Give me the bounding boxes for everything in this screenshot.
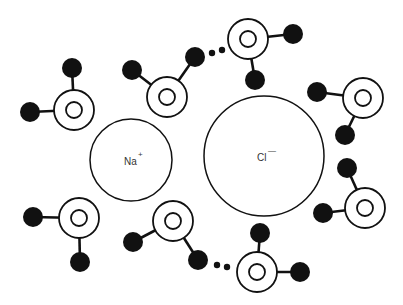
oxygen-atom-outer: [345, 188, 385, 228]
sodium-ion: Na +: [90, 119, 172, 201]
oxygen-atom-outer: [147, 77, 187, 117]
oxygen-atom-outer: [59, 198, 99, 238]
hydrogen-atom: [123, 232, 143, 252]
hydrogen-atom: [313, 203, 333, 223]
sodium-ion-label: Na: [124, 156, 137, 167]
hydrogen-bond-dot: [209, 50, 215, 56]
hydrogen-atom: [70, 252, 90, 272]
oxygen-atoms: [54, 19, 385, 292]
oxygen-atom-outer: [228, 19, 268, 59]
oxygen-atom-outer: [343, 78, 383, 118]
hydrogen-atom: [188, 250, 208, 270]
hydrogen-atom: [307, 82, 327, 102]
hydrogen-atom: [185, 47, 205, 67]
chloride-ion-label: Cl: [257, 152, 266, 163]
hydrogen-atom: [20, 102, 40, 122]
ion-hydration-diagram: Na + Cl —: [0, 0, 403, 305]
hydrogen-atom: [62, 58, 82, 78]
hydrogen-atom: [245, 70, 265, 90]
sodium-ion-charge: +: [138, 150, 143, 159]
oxygen-atom-outer: [54, 90, 94, 130]
hydrogen-atom: [23, 207, 43, 227]
chloride-ion: Cl —: [204, 96, 324, 216]
hydrogen-bond-dots: [209, 47, 230, 270]
hydrogen-atom: [283, 24, 303, 44]
hydrogen-atom: [335, 125, 355, 145]
oxygen-atom-outer: [237, 252, 277, 292]
hydrogen-bond-dot: [224, 264, 230, 270]
hydrogen-atom: [290, 262, 310, 282]
chloride-ion-charge: —: [268, 146, 276, 155]
hydrogen-atom: [250, 223, 270, 243]
oxygen-atom-outer: [153, 201, 193, 241]
hydrogen-atom: [337, 158, 357, 178]
hydrogen-bond-dot: [219, 47, 225, 53]
hydrogen-bond-dot: [214, 262, 220, 268]
hydrogen-atom: [122, 60, 142, 80]
